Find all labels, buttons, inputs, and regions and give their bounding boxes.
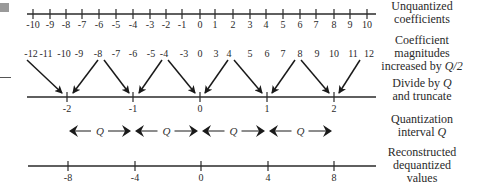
value-label: 4 (227, 48, 232, 59)
value-label: -3 (180, 48, 188, 59)
tick-label: 3 (248, 19, 253, 30)
tick-label: -7 (78, 19, 86, 30)
value-label: -8 (94, 48, 102, 59)
label-line: coefficients (372, 13, 472, 26)
value-label: 3 (214, 48, 219, 59)
interval-q-symbol: Q (163, 125, 171, 137)
tick-label: 2 (231, 19, 236, 30)
value-label: -4 (160, 48, 168, 59)
tick-label: 0 (198, 19, 203, 30)
value-label: 6 (265, 48, 270, 59)
tick-label: 2 (332, 103, 337, 114)
label-q: Q (443, 76, 452, 90)
tick-label: 8 (332, 172, 337, 183)
tick-label: 6 (298, 19, 303, 30)
value-label: 7 (281, 48, 286, 59)
truncation-arrows (27, 60, 360, 93)
label-line: values (372, 172, 472, 185)
tick-label: 10 (362, 19, 372, 30)
tick-label: -4 (129, 19, 137, 30)
label-text: interval (398, 125, 435, 139)
tick-label: 1 (265, 103, 270, 114)
label-line: increased by Q/2 (372, 60, 472, 73)
value-label: -10 (57, 48, 70, 59)
tick-label: 0 (198, 103, 203, 114)
quantization-interval-row: QQQQ (69, 125, 332, 137)
tick-label: 4 (266, 172, 271, 183)
tick-label: 5 (281, 19, 286, 30)
tick-label: 1 (213, 19, 218, 30)
tick-label: -9 (46, 19, 54, 30)
label-q: Q/2 (445, 59, 463, 73)
tick-label: -2 (162, 19, 170, 30)
tick-label: 7 (314, 19, 319, 30)
label-interval: Quantization interval Q (372, 113, 472, 139)
label-increased: Coefficient magnitudes increased by Q/2 (372, 34, 472, 73)
value-label: -5 (147, 48, 155, 59)
label-line: and truncate (372, 90, 472, 103)
tick-label: -5 (112, 19, 120, 30)
unquantized-axis: -10-9-8-7-6-5-4-3-2-1012345678910 (26, 9, 376, 30)
tick-label: 8 (332, 19, 337, 30)
tick-label: -10 (26, 19, 39, 30)
label-line: interval Q (372, 126, 472, 139)
tick-label: -6 (95, 19, 103, 30)
value-label: -12 (24, 48, 37, 59)
tick-label: -1 (129, 103, 137, 114)
value-label: 0 (198, 48, 203, 59)
tick-label: 4 (264, 19, 269, 30)
value-label: -6 (129, 48, 137, 59)
value-label: 9 (315, 48, 320, 59)
tick-label: -3 (146, 19, 154, 30)
tick-label: -1 (178, 19, 186, 30)
divided-axis: -2-1012 (27, 92, 376, 114)
value-label: 11 (348, 48, 358, 59)
label-reconstructed: Reconstructed dequantized values (372, 146, 472, 185)
value-label: -9 (75, 48, 83, 59)
interval-q-symbol: Q (297, 125, 305, 137)
label-unquantized: Unquantized coefficients (372, 0, 472, 26)
label-divide: Divide by Q and truncate (372, 77, 472, 103)
reconstructed-axis: -8-4048 (28, 161, 376, 183)
tick-label: 0 (199, 172, 204, 183)
label-text: Divide by (392, 76, 440, 90)
label-text: increased by (381, 59, 441, 73)
tick-label: -8 (64, 172, 72, 183)
tick-label: -2 (63, 103, 71, 114)
label-q: Q (437, 125, 446, 139)
interval-q-symbol: Q (96, 125, 104, 137)
value-label: 5 (248, 48, 253, 59)
value-label: -11 (40, 48, 53, 59)
tick-label: -4 (131, 172, 139, 183)
interval-q-symbol: Q (230, 125, 238, 137)
value-label: -7 (112, 48, 120, 59)
tick-label: 9 (348, 19, 353, 30)
value-label: 10 (329, 48, 339, 59)
increased-values-row: -12-11-10-9-8-7-6-5-4-303456789101112 (24, 48, 374, 59)
tick-label: -8 (62, 19, 70, 30)
value-label: 8 (298, 48, 303, 59)
